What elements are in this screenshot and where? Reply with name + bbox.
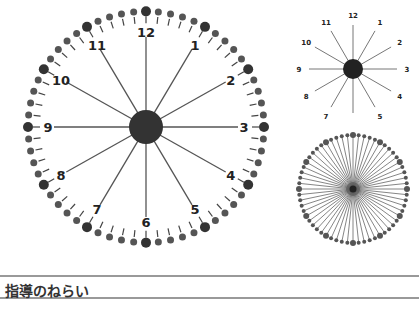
minute-bead [106,14,113,21]
minute-tick [55,62,61,66]
minute-tick [134,17,135,24]
minute-bead [190,229,197,236]
minute-bead [82,22,92,32]
minute-tick [179,226,181,233]
hour-numeral: 4 [226,168,235,183]
hour-numeral: 9 [297,66,302,74]
minute-tick [232,62,238,66]
minute-bead [118,10,125,17]
minute-tick [55,188,61,192]
minute-bead [155,8,162,15]
minute-bead [179,14,186,21]
hour-numeral: 3 [405,66,410,74]
minute-tick [251,138,258,139]
minute-bead [106,233,113,240]
minute-bead [141,6,151,16]
minute-tick [157,230,158,237]
minute-bead [329,138,333,142]
minute-spoke [331,140,353,189]
minute-tick [217,204,222,209]
minute-bead [345,133,349,137]
hour-numeral: 3 [239,120,248,135]
minute-tick [62,53,67,58]
minute-tick [80,211,84,217]
hour-numeral: 2 [397,39,402,47]
small-clock-diagram: 121234567891011 [280,0,419,120]
minute-bead [397,213,403,219]
clock-hub [343,59,363,79]
minute-bead [350,240,356,246]
minute-tick [225,53,230,58]
minute-bead [118,237,125,244]
hour-numeral: 2 [226,73,235,88]
hour-numeral: 1 [190,38,199,53]
minute-bead [405,181,409,185]
minute-tick [208,37,212,43]
minute-bead [73,30,80,37]
minute-spoke [304,189,353,211]
minute-tick [217,45,222,50]
minute-bead [404,186,410,192]
minute-tick [70,45,75,50]
minute-tick [90,217,94,223]
minute-bead [255,159,262,166]
minute-bead [82,222,92,232]
minute-bead [27,148,34,155]
minute-bead [30,159,37,166]
minute-tick [250,104,257,105]
minute-spoke-diagram [280,120,419,260]
minute-bead [345,241,349,245]
hour-numeral: 10 [301,39,311,47]
minute-bead [35,171,42,178]
minute-tick [123,228,124,235]
minute-bead [368,136,372,140]
minute-tick [35,104,42,105]
minute-bead [167,10,174,17]
hour-numeral: 6 [141,215,150,230]
minute-tick [189,26,192,32]
minute-bead [303,213,309,219]
minute-tick [35,149,42,150]
hour-numeral: 7 [324,113,329,120]
hour-numeral: 1 [378,19,383,27]
minute-bead [73,217,80,224]
minute-bead [190,18,197,25]
minute-tick [247,159,254,161]
minute-spoke [353,167,402,189]
minute-tick [123,19,124,26]
hour-numeral: 7 [92,202,101,217]
minute-bead [300,170,304,174]
minute-bead [297,181,301,185]
minute-bead [391,223,395,227]
minute-tick [208,211,212,217]
minute-bead [311,151,315,155]
minute-tick [43,82,49,85]
minute-bead [297,193,301,197]
minute-bead [30,88,37,95]
minute-bead [300,204,304,208]
hour-numeral: 5 [378,113,383,120]
minute-bead [212,30,219,37]
minute-bead [397,159,403,165]
minute-bead [395,155,399,159]
minute-bead [238,56,245,63]
minute-bead [243,64,253,74]
minute-tick [100,26,103,32]
minute-bead [130,239,137,246]
minute-bead [329,236,333,240]
minute-bead [47,191,54,198]
minute-tick [199,31,203,37]
minute-tick [250,149,257,150]
minute-tick [168,228,169,235]
hour-numeral: 12 [137,25,155,40]
minute-bead [200,22,210,32]
minute-bead [243,180,253,190]
minute-bead [64,38,71,45]
minute-tick [189,222,192,228]
minute-tick [34,115,41,116]
minute-bead [200,222,210,232]
section-title: 指導のねらい [5,280,89,300]
minute-spoke [353,189,402,211]
minute-bead [340,240,344,244]
minute-bead [255,88,262,95]
